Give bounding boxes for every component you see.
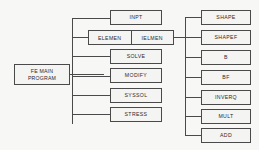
diagram-canvas: FE MAIN PROGRAM INPT ELEMEN IELMEN SOLVE… (0, 0, 259, 150)
node-add-label: ADD (220, 132, 232, 139)
node-modify-label: MODIFY (125, 72, 147, 79)
node-shape[interactable]: SHAPE (201, 10, 251, 25)
node-inpt-label: INPT (129, 14, 142, 21)
node-add[interactable]: ADD (201, 128, 251, 143)
node-shapef[interactable]: SHAPEF (201, 30, 251, 45)
connector-spine-modify (72, 76, 110, 77)
node-inpt[interactable]: INPT (110, 10, 162, 25)
connector-spine-b (185, 57, 201, 58)
connector-level2-spine (72, 18, 73, 124)
node-inverq[interactable]: INVERQ (201, 90, 251, 105)
node-syssol-label: SYSSOL (125, 92, 148, 99)
connector-spine-bf (185, 77, 201, 78)
node-mult[interactable]: MULT (201, 109, 251, 124)
connector-spine-solve (72, 56, 110, 57)
connector-spine-shapef (185, 37, 201, 38)
connector-spine-mult (185, 116, 201, 117)
node-mult-label: MULT (218, 113, 233, 120)
connector-spine-add (185, 135, 201, 136)
node-modify[interactable]: MODIFY (110, 68, 162, 83)
node-shape-label: SHAPE (216, 14, 235, 21)
node-b-label: B (224, 54, 228, 61)
node-solve-label: SOLVE (127, 53, 146, 60)
connector-spine-inverq (185, 97, 201, 98)
node-stress[interactable]: STRESS (110, 107, 162, 122)
node-stress-label: STRESS (125, 111, 148, 118)
node-elemen[interactable]: ELEMEN (89, 31, 131, 44)
connector-spine-stress (72, 114, 110, 115)
node-shapef-label: SHAPEF (215, 34, 238, 41)
connector-spine-syssol (72, 95, 110, 96)
node-elemen-label: ELEMEN (98, 35, 121, 41)
connector-spine-inpt (72, 18, 110, 19)
node-ielmen[interactable]: IELMEN (131, 31, 174, 44)
node-fe-main-program-line2: PROGRAM (28, 75, 56, 82)
node-ielmen-label: IELMEN (142, 35, 163, 41)
connector-root-trunk (70, 74, 104, 75)
connector-spine-elemen (72, 37, 88, 38)
node-fe-main-program[interactable]: FE MAIN PROGRAM (14, 64, 70, 85)
node-bf-label: BF (222, 74, 229, 81)
node-inverq-label: INVERQ (215, 94, 237, 101)
connector-spine-shape (185, 17, 201, 18)
node-elemen-ielmen[interactable]: ELEMEN IELMEN (88, 30, 174, 45)
connector-level3-spine (185, 17, 186, 135)
node-bf[interactable]: BF (201, 70, 251, 85)
node-syssol[interactable]: SYSSOL (110, 88, 162, 103)
node-solve[interactable]: SOLVE (110, 49, 162, 64)
node-b[interactable]: B (201, 50, 251, 65)
